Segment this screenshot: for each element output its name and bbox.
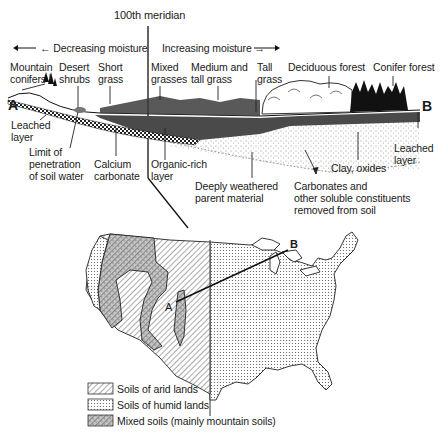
label-tall-grass: Tallgrass — [257, 61, 282, 85]
legend-swatch-mixed — [88, 415, 113, 426]
label-clay-oxides: Clay, oxides — [331, 162, 386, 174]
us-map — [86, 232, 358, 400]
label-deciduous-forest: Deciduous forest — [288, 61, 365, 73]
legend-mixed-label: Mixed soils (mainly mountain soils) — [117, 415, 276, 427]
label-leached-layer-west: Leachedlayer — [11, 119, 51, 143]
endpoint-b-label: B — [422, 100, 432, 112]
label-organic-rich-layer: Organic-richlayer — [151, 158, 207, 182]
map-point-b: B — [290, 238, 298, 250]
label-mountain-conifers: Mountainconifers — [10, 61, 52, 85]
endpoint-a-label: A — [8, 99, 18, 111]
label-limit-soil-water: Limit ofpenetrationof soil water — [29, 146, 84, 182]
increasing-moisture-label: Increasing moisture → — [162, 42, 265, 54]
label-medium-tall-grass: Medium andtall grass — [191, 61, 248, 85]
label-short-grass: Shortgrass — [98, 61, 123, 85]
soil-moisture-diagram: 100th meridian ← Decreasing moisture Inc… — [0, 0, 448, 440]
meridian-title: 100th meridian — [114, 9, 185, 21]
label-carbonates-removed: Carbonates andother soluble constituents… — [294, 180, 410, 216]
decreasing-moisture-label: ← Decreasing moisture — [12, 42, 148, 54]
legend-humid-label: Soils of humid lands — [117, 399, 209, 411]
decreasing-moisture-text: ← Decreasing moisture — [40, 42, 148, 54]
legend-swatches — [88, 383, 113, 426]
label-calcium-carbonate: Calciumcarbonate — [94, 158, 140, 182]
label-mixed-grasses: Mixedgrasses — [151, 61, 187, 85]
legend-swatch-humid — [88, 399, 113, 410]
label-desert-shrubs: Desertshrubs — [59, 61, 90, 85]
label-conifer-forest: Conifer forest — [373, 61, 435, 73]
map-point-a: A — [165, 301, 172, 313]
label-leached-layer-east: Leachedlayer — [394, 142, 434, 166]
legend-arid-label: Soils of arid lands — [117, 383, 198, 395]
legend-swatch-arid — [88, 383, 113, 394]
label-deeply-weathered: Deeply weatheredparent material — [195, 180, 278, 204]
